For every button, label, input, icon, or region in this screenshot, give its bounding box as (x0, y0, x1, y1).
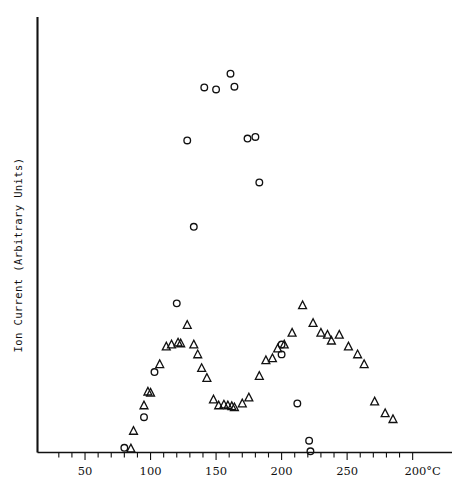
data-point-triangle (190, 340, 198, 348)
data-point-circle (294, 400, 301, 407)
data-point-circle (173, 300, 180, 307)
data-point-circle (190, 224, 197, 231)
data-point-triangle (299, 301, 307, 309)
data-point-triangle (140, 401, 148, 409)
data-point-circle (256, 179, 263, 186)
x-axis-tick-label: 50 (78, 464, 93, 478)
data-point-triangle (335, 330, 343, 338)
data-point-triangle (245, 393, 253, 401)
data-point-circle (227, 70, 234, 77)
data-point-triangle (203, 374, 211, 382)
data-point-triangle (183, 321, 191, 329)
data-point-triangle (324, 330, 332, 338)
series-triangles (127, 301, 397, 452)
data-point-triangle (389, 415, 397, 423)
data-point-circle (121, 444, 128, 451)
data-point-circle (213, 86, 220, 93)
data-point-triangle (209, 395, 217, 403)
data-point-circle (231, 83, 238, 90)
data-point-triangle (255, 372, 263, 380)
x-axis-tick-label: 150 (205, 464, 227, 478)
data-point-triangle (168, 340, 176, 348)
data-point-triangle (288, 328, 296, 336)
data-point-circle (244, 135, 251, 142)
x-axis-tick-label: 200 (271, 464, 293, 478)
data-point-circle (252, 134, 259, 141)
data-point-triangle (268, 354, 276, 362)
data-point-triangle (381, 409, 389, 417)
data-point-triangle (360, 360, 368, 368)
data-point-triangle (198, 364, 206, 372)
data-point-circle (141, 414, 148, 421)
series-circles (121, 70, 314, 454)
data-point-circle (307, 448, 314, 455)
y-axis-title: Ion Current (Arbitrary Units) (12, 158, 24, 353)
data-point-circle (184, 137, 191, 144)
data-point-circle (201, 84, 208, 91)
data-point-triangle (344, 342, 352, 350)
scatter-chart-figure: Ion Current (Arbitrary Units) 5010015020… (0, 0, 455, 483)
data-point-circle (151, 369, 158, 376)
data-point-circle (306, 437, 313, 444)
data-point-triangle (354, 350, 362, 358)
data-point-triangle (130, 427, 138, 435)
x-axis-tick-label: 250 (336, 464, 358, 478)
x-axis-tick-labels: 50100150200250200°C (78, 464, 441, 478)
data-point-triangle (317, 328, 325, 336)
data-point-triangle (309, 319, 317, 327)
x-axis-ticks (59, 453, 413, 461)
x-axis-tick-label: 100 (140, 464, 162, 478)
x-axis-tick-label: 200°C (404, 464, 441, 478)
data-point-triangle (156, 360, 164, 368)
data-point-triangle (194, 350, 202, 358)
y-axis-title-group: Ion Current (Arbitrary Units) (12, 158, 24, 353)
data-point-triangle (371, 397, 379, 405)
data-point-triangle (262, 356, 270, 364)
chart-svg: Ion Current (Arbitrary Units) 5010015020… (0, 0, 455, 483)
